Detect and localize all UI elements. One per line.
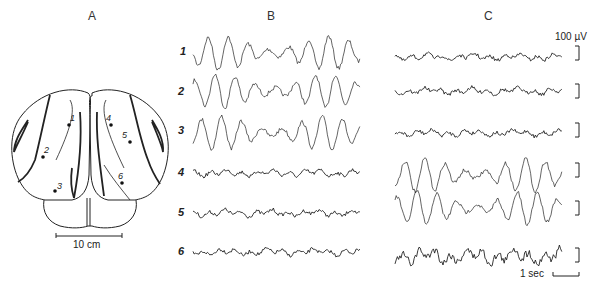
eeg-trace-b-2 <box>193 74 360 109</box>
eeg-trace-b-5 <box>193 208 360 218</box>
eeg-trace-b-6 <box>193 248 360 258</box>
eeg-trace-c-2 <box>395 86 562 96</box>
eeg-traces <box>0 0 599 288</box>
voltage-scale-bracket-6 <box>575 248 579 262</box>
eeg-trace-b-3 <box>193 115 360 150</box>
eeg-trace-b-1 <box>193 36 360 71</box>
eeg-trace-c-4 <box>395 158 562 193</box>
voltage-scale-bracket-1 <box>575 46 579 60</box>
voltage-scale-bracket-5 <box>575 201 579 215</box>
eeg-trace-c-6 <box>395 245 562 266</box>
time-scale-label: 1 sec <box>520 268 544 279</box>
eeg-trace-c-5 <box>395 190 562 225</box>
voltage-scale-bracket-3 <box>575 123 579 137</box>
voltage-scale-label: 100 µV <box>555 31 587 42</box>
eeg-trace-c-3 <box>395 128 562 138</box>
voltage-scale-bracket-4 <box>575 163 579 177</box>
voltage-scale-bracket-2 <box>575 84 579 98</box>
time-scale-bar <box>553 272 579 276</box>
eeg-trace-b-4 <box>193 169 360 178</box>
eeg-trace-c-1 <box>395 52 562 62</box>
